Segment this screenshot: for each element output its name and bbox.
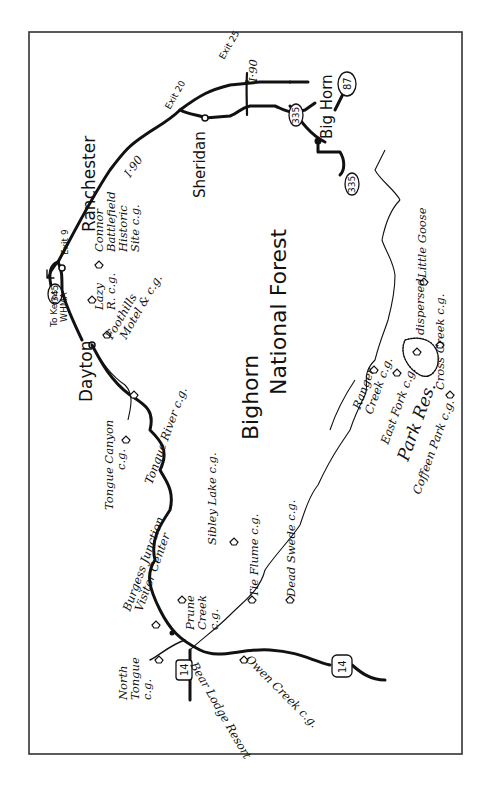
sr335-road-south [318, 141, 344, 175]
sr335-shield-north: 335 [289, 104, 303, 126]
interstate-label: I·90 [120, 153, 145, 181]
us14-road-east [352, 665, 385, 680]
svg-text:335: 335 [291, 107, 301, 124]
dead-swede-label: Dead Swede c.g. [284, 500, 298, 598]
dispersed-label: dispersed [413, 278, 427, 335]
exit9-label: Exit 9 [60, 229, 70, 255]
tongue-canyon-label-2: c.g. [114, 449, 128, 470]
dayton-label: Dayton [76, 341, 96, 402]
interstate-label-east: I·90 [246, 59, 260, 83]
svg-text:14: 14 [337, 660, 348, 673]
to-kerns-label-line1: To Kerns [49, 289, 59, 328]
sheridan-town-dot [202, 115, 208, 121]
tongue-river-label: Tongue River c.g. [142, 385, 190, 486]
us14-shield-south: 14 [332, 655, 352, 677]
to-kerns-label-line2: WHMA [59, 292, 69, 322]
svg-text:87: 87 [342, 77, 353, 90]
north-tongue-label-3: c.g. [140, 679, 154, 700]
connor-label-4: Site c.g. [128, 204, 142, 252]
little-goose-boundary [375, 150, 400, 200]
sr335-shield-south: 335 [345, 173, 359, 195]
little-goose-label: Little Goose [415, 207, 429, 279]
sheridan-label: Sheridan [191, 131, 209, 198]
bighorn-label: Big Horn [318, 74, 336, 139]
cross-creek-label: Cross Creek c.g. [433, 294, 447, 390]
map-title-line1: Bighorn [238, 355, 263, 440]
us87-shield: 87 [338, 72, 356, 96]
bighorn-map: 87 335 335 345 14 14 [0, 0, 490, 786]
exit25-label: Exit 25 [217, 29, 241, 61]
owen-creek-label: Owen Creek c.g. [243, 652, 321, 730]
burgess-junction-dot [170, 631, 175, 636]
lazy-r-label-2: R. c.g. [104, 273, 118, 311]
map-title-line2: National Forest [266, 228, 291, 395]
prune-creek-label-3: c.g. [207, 609, 221, 630]
ranchester-town-dot [59, 265, 65, 271]
map-page: 87 335 335 345 14 14 [0, 0, 490, 786]
bear-lodge-label: Bear Lodge Resort [187, 659, 255, 762]
sibley-lake-label: Sibley Lake c.g. [205, 452, 219, 545]
svg-text:335: 335 [347, 176, 357, 193]
tongue-road [150, 640, 185, 660]
tie-flume-label: Tie Flume c.g. [247, 514, 261, 597]
